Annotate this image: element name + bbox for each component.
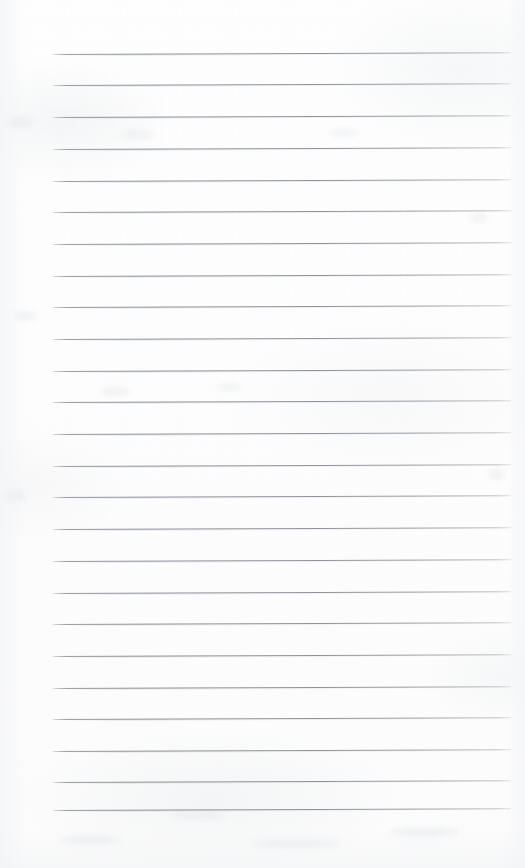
notepad-page[interactable] <box>0 0 525 868</box>
text-line-1[interactable] <box>53 29 511 55</box>
text-line-13[interactable] <box>53 409 511 435</box>
text-line-12[interactable] <box>53 377 511 403</box>
text-line-15[interactable] <box>53 472 511 498</box>
text-line-10[interactable] <box>53 314 511 340</box>
text-line-17[interactable] <box>53 536 511 562</box>
text-line-6[interactable] <box>53 187 511 213</box>
text-line-14[interactable] <box>53 441 511 467</box>
text-line-11[interactable] <box>53 346 511 372</box>
text-line-21[interactable] <box>53 663 511 689</box>
text-line-20[interactable] <box>53 631 511 657</box>
text-line-23[interactable] <box>53 726 511 752</box>
text-line-9[interactable] <box>53 282 511 308</box>
text-line-7[interactable] <box>53 219 511 245</box>
text-line-22[interactable] <box>53 694 511 720</box>
text-line-19[interactable] <box>53 599 511 625</box>
text-line-2[interactable] <box>53 60 511 86</box>
text-line-24[interactable] <box>53 757 511 783</box>
text-line-3[interactable] <box>53 92 511 118</box>
text-line-5[interactable] <box>53 156 511 182</box>
ruled-lines-layer <box>0 0 525 868</box>
text-line-16[interactable] <box>53 504 511 530</box>
text-line-4[interactable] <box>53 124 511 150</box>
text-line-18[interactable] <box>53 568 511 594</box>
text-line-25[interactable] <box>53 785 511 811</box>
text-line-8[interactable] <box>53 251 511 277</box>
